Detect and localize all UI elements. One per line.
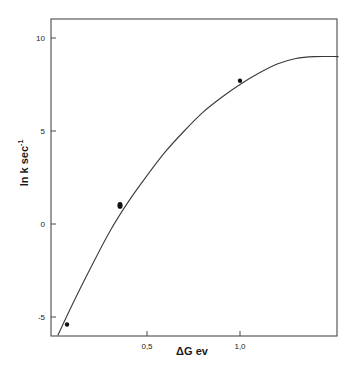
plot-frame xyxy=(51,19,337,336)
fitted-curve xyxy=(58,56,339,335)
y-tick-label: 0 xyxy=(41,220,46,229)
data-point xyxy=(238,79,242,83)
x-axis-label: ΔG ev xyxy=(176,345,209,357)
data-point xyxy=(65,322,69,326)
axis-ticks: 1050-50,51,0 xyxy=(36,34,246,351)
y-tick-label: 5 xyxy=(41,127,46,136)
x-tick-label: 1,0 xyxy=(234,342,246,351)
x-tick-label: 0,5 xyxy=(141,342,153,351)
y-axis-label: ln k sec-1 xyxy=(17,140,30,187)
y-tick-label: 10 xyxy=(36,34,45,43)
chart: 1050-50,51,0 ΔG ev ln k sec-1 xyxy=(0,0,352,368)
y-tick-label: -5 xyxy=(38,313,46,322)
data-points xyxy=(65,79,242,327)
curve-path xyxy=(58,56,339,335)
axes-box xyxy=(51,19,337,336)
data-point xyxy=(117,202,122,209)
axis-labels: ΔG ev ln k sec-1 xyxy=(17,140,209,357)
